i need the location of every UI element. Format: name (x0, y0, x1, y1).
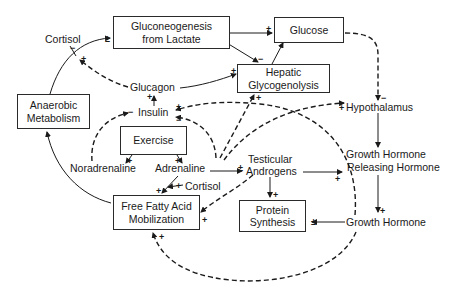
exercise-box: Exercise (120, 126, 187, 155)
protein-line2: Synthesis (250, 216, 296, 229)
sign-plus: + (147, 93, 152, 102)
ghrh-line1: Growth Hormone (346, 148, 426, 161)
edge-anaerobic-to-gluconeogenesis (50, 38, 110, 94)
protein-line1: Protein (256, 204, 289, 217)
sign-plus: + (380, 207, 385, 216)
glucose-label: Glucose (290, 24, 329, 37)
sign-plus: + (266, 25, 271, 34)
sign-minus: − (258, 55, 263, 64)
sign-plus: + (127, 157, 132, 166)
gluconeogenesis-box: Gluconeogenesis from Lactate (113, 16, 230, 49)
sign-plus: + (335, 175, 340, 184)
ffa-line1: Free Fatty Acid (121, 200, 192, 213)
sign-minus: − (176, 116, 181, 125)
sign-plus: + (81, 55, 86, 64)
hepatic-line2: Glycogenolysis (248, 79, 319, 92)
sign-plus: + (202, 216, 207, 225)
exercise-hormone-diagram: Gluconeogenesis from Lactate Glucose Hep… (0, 0, 452, 296)
protein-synthesis-box: Protein Synthesis (239, 200, 306, 232)
sign-minus: − (381, 94, 386, 103)
hepatic-line1: Hepatic (266, 66, 302, 79)
sign-plusminus: ± (311, 218, 316, 227)
sign-plus: + (159, 233, 164, 242)
glucagon-label: Glucagon (130, 81, 175, 94)
sign-plus: + (176, 182, 181, 191)
edge-glucagon-to-hepatic (180, 74, 236, 88)
hepatic-glycogenolysis-box: Hepatic Glycogenolysis (237, 64, 330, 93)
sign-plusminus: ± (105, 35, 110, 44)
sign-minus: − (128, 108, 133, 117)
ffa-line2: Mobilization (129, 213, 184, 226)
glucose-box: Glucose (274, 17, 344, 43)
sign-plus: + (339, 104, 344, 113)
sign-plus: + (156, 187, 161, 196)
anaerobic-line2: Metabolism (27, 112, 81, 125)
edge-gh-to-ffa (153, 232, 356, 281)
sign-plus: + (176, 103, 181, 112)
edge-glucose-to-hypothalamus (345, 33, 378, 100)
growth-hormone-label: Growth Hormone (346, 216, 426, 229)
hypothalamus-label: Hypothalamus (346, 101, 413, 114)
gluconeogenesis-line2: from Lactate (142, 33, 200, 46)
sign-plusminus: ± (238, 164, 243, 173)
sign-plus: + (175, 157, 180, 166)
ghrh-line2: Releasing Hormone (347, 161, 440, 174)
sign-minus: − (70, 44, 75, 53)
edge-glucagon-to-pathway (80, 60, 128, 87)
edge-hepatic-to-glucose (272, 43, 283, 64)
anaerobic-metabolism-box: Anaerobic Metabolism (17, 94, 90, 129)
exercise-label: Exercise (133, 134, 173, 147)
gluconeogenesis-line1: Gluconeogenesis (131, 20, 212, 33)
androgens-line1: Testicular (248, 153, 292, 166)
sign-plus: + (231, 67, 236, 76)
cortisol-bottom-label: Cortisol (185, 180, 221, 193)
anaerobic-line1: Anaerobic (30, 99, 77, 112)
sign-plus: + (256, 94, 261, 103)
ffa-mobilization-box: Free Fatty Acid Mobilization (113, 195, 200, 230)
insulin-label: Insulin (138, 106, 168, 119)
edge-adrenaline-to-hepatic (220, 95, 254, 158)
sign-plus: + (273, 191, 278, 200)
androgens-line2: Androgens (246, 165, 297, 178)
